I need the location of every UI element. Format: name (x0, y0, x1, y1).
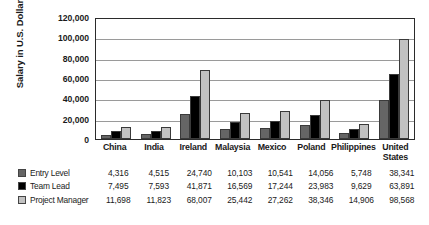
bar (220, 129, 230, 139)
bar (230, 122, 240, 139)
table-cell: 38,346 (301, 195, 342, 205)
y-tick-label: 80,000 (63, 54, 89, 63)
cropped-caption (30, 215, 270, 225)
bar (200, 70, 210, 139)
bar (280, 111, 290, 139)
x-axis-label: Malaysia (213, 143, 252, 162)
bar (151, 131, 161, 139)
y-axis-tick-labels: 120,000100,00080,00060,00040,00020,0000 (46, 18, 92, 140)
bar (389, 74, 399, 139)
legend-swatch (18, 196, 26, 204)
bar (101, 135, 111, 139)
table-cell: 98,568 (382, 195, 423, 205)
table-cell: 7,495 (98, 181, 139, 191)
bar-group (215, 19, 255, 139)
bar (359, 124, 369, 139)
bar-group (136, 19, 176, 139)
table-cell: 63,891 (382, 181, 423, 191)
table-cell: 14,056 (301, 168, 342, 178)
x-axis-label: Philippines (331, 143, 376, 162)
bar (121, 127, 131, 139)
plot-area (95, 18, 415, 140)
table-cell: 4,515 (139, 168, 180, 178)
bar (399, 39, 409, 139)
y-tick-label: 100,000 (58, 34, 89, 43)
bar (111, 131, 121, 139)
y-axis-title: Salary in U.S. Dollars (14, 0, 25, 102)
bar-group (374, 19, 414, 139)
y-tick-label: 0 (84, 136, 89, 145)
bar (240, 113, 250, 139)
x-axis-label: India (134, 143, 173, 162)
table-cell: 38,341 (382, 168, 423, 178)
table-cell: 4,316 (98, 168, 139, 178)
legend-series-label: Entry Level (30, 168, 98, 178)
table-row: Project Manager11,69811,82368,00725,4422… (18, 193, 422, 207)
table-cell: 7,593 (139, 181, 180, 191)
legend-swatch (18, 169, 26, 177)
table-cell: 11,823 (139, 195, 180, 205)
bar (320, 100, 330, 139)
bar (310, 115, 320, 139)
table-cell: 24,740 (179, 168, 220, 178)
bar (339, 133, 349, 139)
x-axis-label: Poland (292, 143, 331, 162)
bar (270, 121, 280, 139)
bar-group (295, 19, 335, 139)
y-tick-label: 40,000 (63, 95, 89, 104)
table-cell: 10,103 (220, 168, 261, 178)
bar-group (96, 19, 136, 139)
legend-swatch (18, 182, 26, 190)
bar (260, 128, 270, 139)
bar-group (176, 19, 216, 139)
bar (300, 125, 310, 139)
bar-groups (96, 19, 414, 139)
y-tick-label: 120,000 (58, 14, 89, 23)
x-axis-label: Ireland (174, 143, 213, 162)
table-cell: 25,442 (220, 195, 261, 205)
table-cell: 14,906 (341, 195, 382, 205)
table-cell: 16,569 (220, 181, 261, 191)
table-cells: 7,4957,59341,87116,56917,24423,9839,6296… (98, 181, 422, 191)
bar (141, 134, 151, 139)
x-axis-category-labels: ChinaIndiaIrelandMalaysiaMexicoPolandPhi… (95, 143, 415, 162)
bar (379, 100, 389, 139)
table-cell: 27,262 (260, 195, 301, 205)
bar (180, 114, 190, 139)
table-cell: 5,748 (341, 168, 382, 178)
table-cell: 68,007 (179, 195, 220, 205)
bar (161, 127, 171, 139)
bar-group (335, 19, 375, 139)
bar-group (255, 19, 295, 139)
bar (190, 96, 200, 139)
legend-series-label: Team Lead (30, 181, 98, 191)
x-axis-label: Mexico (252, 143, 291, 162)
table-cell: 10,541 (260, 168, 301, 178)
x-axis-label: China (95, 143, 134, 162)
x-axis-label: United States (376, 143, 415, 162)
table-cell: 23,983 (301, 181, 342, 191)
table-cells: 4,3164,51524,74010,10310,54114,0565,7483… (98, 168, 422, 178)
table-row: Team Lead7,4957,59341,87116,56917,24423,… (18, 180, 422, 194)
salary-bar-chart-figure: Salary in U.S. Dollars 120,000100,00080,… (0, 0, 429, 225)
table-cells: 11,69811,82368,00725,44227,26238,34614,9… (98, 195, 422, 205)
legend-data-table: Entry Level4,3164,51524,74010,10310,5411… (18, 166, 422, 207)
table-cell: 11,698 (98, 195, 139, 205)
table-cell: 9,629 (341, 181, 382, 191)
y-tick-label: 20,000 (63, 115, 89, 124)
table-cell: 41,871 (179, 181, 220, 191)
legend-series-label: Project Manager (30, 195, 98, 205)
bar (349, 129, 359, 139)
y-tick-label: 60,000 (63, 75, 89, 84)
table-row: Entry Level4,3164,51524,74010,10310,5411… (18, 166, 422, 180)
table-cell: 17,244 (260, 181, 301, 191)
